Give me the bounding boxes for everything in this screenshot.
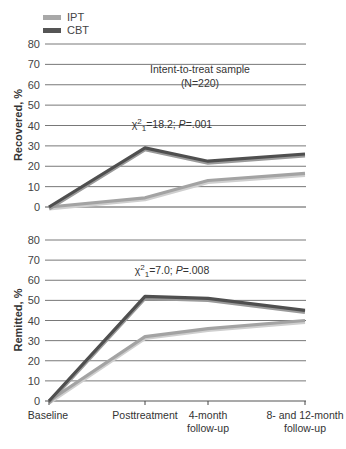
y-tick-label: 60	[28, 274, 40, 286]
y-tick-label: 60	[28, 79, 40, 91]
y-tick-label: 80	[28, 38, 40, 50]
line-chart: IPT CBT Intent-to-treat sample (N=220) 0…	[0, 0, 346, 449]
sample-size-label: (N=220)	[181, 77, 219, 89]
x-tick-label: 4-month	[189, 409, 228, 421]
y-tick-label: 0	[34, 201, 40, 213]
y-tick-label: 10	[28, 375, 40, 387]
legend-swatch-ipt	[43, 15, 61, 20]
y-tick-label: 30	[28, 140, 40, 152]
y-tick-label: 50	[28, 99, 40, 111]
x-tick-label: follow-up	[284, 422, 326, 434]
y-tick-label: 30	[28, 335, 40, 347]
y-axis-label: Recovered, %	[12, 89, 24, 161]
legend-label-cbt: CBT	[67, 24, 89, 36]
y-tick-label: 10	[28, 181, 40, 193]
y-tick-label: 70	[28, 58, 40, 70]
y-tick-label: 70	[28, 254, 40, 266]
x-tick-label: Posttreatment	[112, 409, 177, 421]
series-shadow-cbt	[49, 298, 305, 403]
x-tick-label: Baseline	[28, 409, 68, 421]
stat-annotation: χ21=18.2; P=.001	[132, 117, 213, 133]
y-axis-label: Remitted, %	[12, 288, 24, 351]
sample-label: Intent-to-treat sample	[150, 63, 250, 75]
y-tick-label: 40	[28, 315, 40, 327]
y-tick-label: 20	[28, 355, 40, 367]
legend-swatch-cbt	[43, 28, 61, 33]
y-tick-label: 0	[34, 395, 40, 407]
legend-label-ipt: IPT	[67, 11, 84, 23]
chart-panel-remitted: 01020304050607080Remitted, %χ21=7.0; P=.…	[12, 234, 306, 407]
x-tick-label: 8- and 12-month	[266, 409, 343, 421]
legend: IPT CBT	[43, 11, 89, 36]
y-tick-label: 20	[28, 160, 40, 172]
y-tick-label: 40	[28, 120, 40, 132]
x-axis: BaselinePosttreatment4-monthfollow-up8- …	[28, 401, 344, 434]
y-tick-label: 80	[28, 234, 40, 246]
y-tick-label: 50	[28, 294, 40, 306]
series-line-cbt	[49, 296, 305, 401]
stat-annotation: χ21=7.0; P=.008	[135, 263, 210, 279]
chart-panel-recovered: 01020304050607080Recovered, %χ21=18.2; P…	[12, 38, 306, 213]
x-tick-label: follow-up	[187, 422, 229, 434]
